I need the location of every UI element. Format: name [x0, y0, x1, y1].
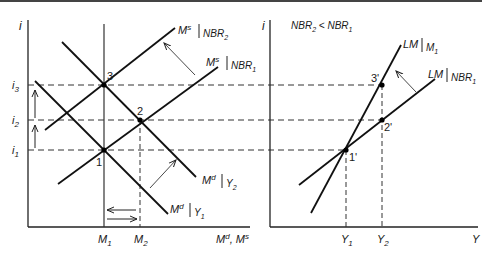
right-panel-is-lm: i NBR2 < NBR1 1' 2' 3' LM M1 LM NBR1 Y1 …: [262, 19, 480, 248]
label-md-y1-cond: Y1: [194, 207, 205, 220]
right-y-axis-label: i: [262, 19, 265, 33]
point-1: [101, 147, 106, 152]
arrow-lm-shift: [396, 71, 416, 92]
label-point-2: 2: [137, 105, 143, 117]
point-2: [137, 117, 142, 122]
lm-nbr1-curve: [299, 79, 435, 185]
label-ms-nbr2-cond: NBR2: [203, 28, 228, 41]
point-3-prime: [379, 82, 384, 87]
label-lm-nbr1-cond: NBR1: [451, 72, 476, 85]
tick-y2: Y2: [377, 233, 389, 248]
label-lm-nbr1: LM: [428, 68, 444, 80]
label-lm-m1-cond: M1: [426, 42, 438, 55]
right-x-axis-label: Y: [472, 233, 480, 245]
label-point-3-prime: 3': [371, 72, 379, 84]
label-point-1-prime: 1': [349, 151, 357, 163]
label-ms-nbr2: Ms: [178, 23, 191, 36]
tick-y1: Y1: [341, 233, 353, 248]
arrow-md-shift: [150, 160, 176, 188]
md-y1-curve: [35, 81, 168, 214]
label-md-y2: Md: [202, 173, 216, 186]
tick-m1: M1: [98, 233, 112, 248]
label-ms-nbr1: Ms: [206, 55, 219, 68]
arrow-ms-shift: [164, 43, 195, 75]
md-y2-curve: [62, 42, 196, 177]
label-ms-nbr1-cond: NBR1: [231, 60, 256, 73]
left-x-axis-label: Md, Ms: [216, 232, 249, 245]
label-point-1: 1: [96, 156, 102, 168]
label-md-y2-cond: Y2: [226, 178, 237, 191]
nbr-condition: NBR2 < NBR1: [291, 20, 353, 33]
is-lm-money-market-diagram: i i3 i2 i1 3 2 1: [0, 0, 493, 257]
tick-i3: i3: [12, 79, 19, 94]
label-point-2-prime: 2': [384, 121, 392, 133]
tick-i1: i1: [12, 144, 19, 159]
left-panel-money-market: i i3 i2 i1 3 2 1: [12, 19, 382, 248]
tick-m2: M2: [134, 233, 148, 248]
label-lm-m1: LM: [403, 38, 419, 50]
left-y-axis-label: i: [19, 19, 22, 33]
tick-i2: i2: [12, 114, 19, 129]
label-point-3: 3: [107, 70, 113, 82]
point-3: [101, 82, 106, 87]
label-md-y1: Md: [170, 202, 184, 215]
point-1-prime: [343, 147, 348, 152]
